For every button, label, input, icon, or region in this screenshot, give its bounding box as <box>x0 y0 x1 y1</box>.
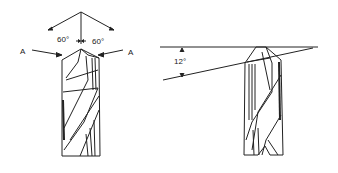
arrow-label-a-right: A <box>128 49 133 57</box>
drill-illustration <box>0 0 338 173</box>
angle-label-right: 60° <box>92 38 104 46</box>
drill-left <box>62 49 100 156</box>
drill-right <box>244 47 283 155</box>
arrow-label-a-left: A <box>20 48 25 56</box>
angle-label-left: 60° <box>57 36 69 44</box>
drill-diagram: 60° 60° A A 12° <box>0 0 338 173</box>
clearance-angle-label: 12° <box>174 58 186 66</box>
